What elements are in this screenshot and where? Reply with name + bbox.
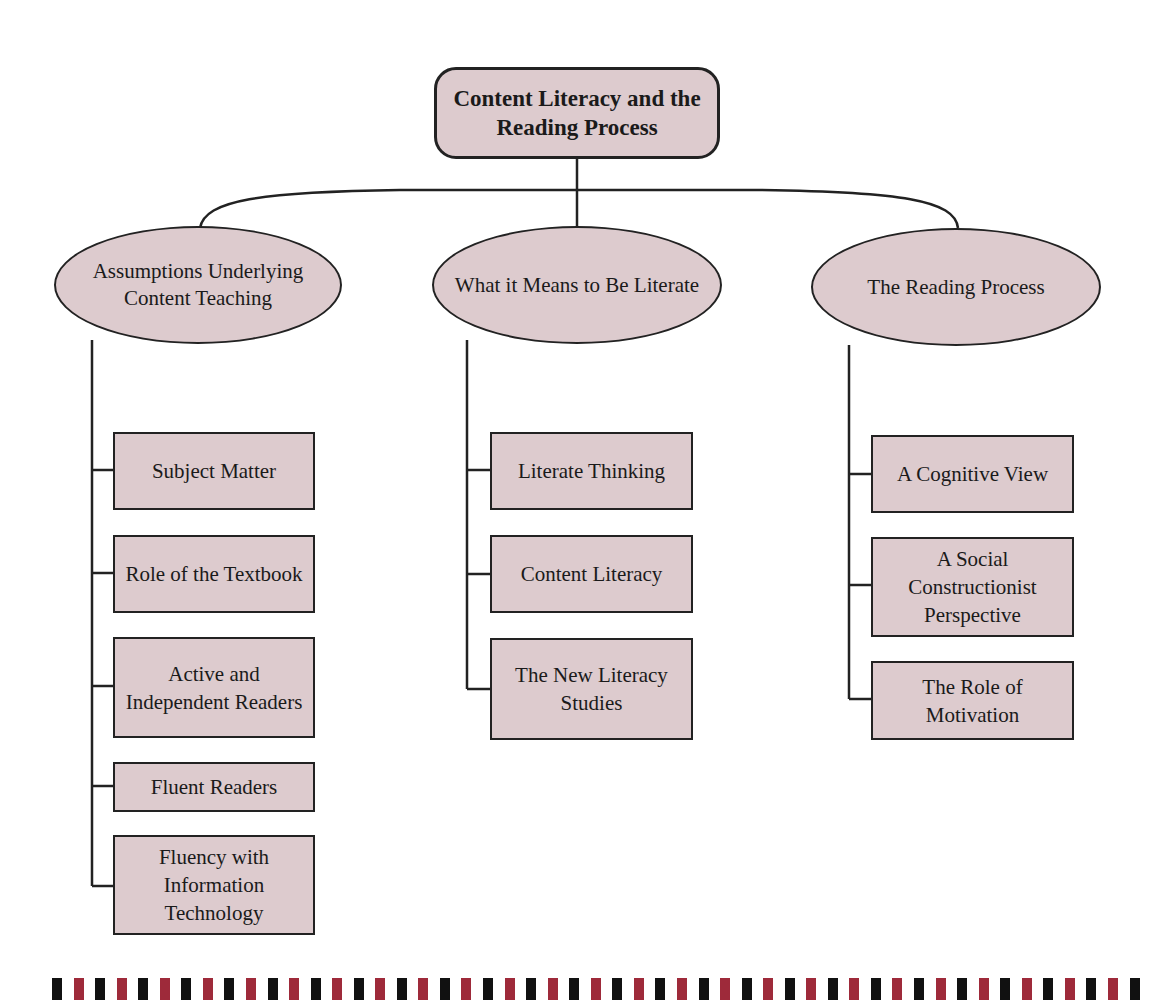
stripe-black <box>311 978 321 1000</box>
stripe-black <box>1086 978 1096 1000</box>
leaf-label: Content Literacy <box>521 560 663 588</box>
leaf-fluent-readers: Fluent Readers <box>113 762 315 812</box>
stripe-red <box>591 978 601 1000</box>
stripe-red <box>246 978 256 1000</box>
root-label: Content Literacy and the Reading Process <box>451 84 703 142</box>
stripe-black <box>828 978 838 1000</box>
stripe-red <box>332 978 342 1000</box>
stripe-black <box>440 978 450 1000</box>
stripe-red <box>892 978 902 1000</box>
stripe-black <box>612 978 622 1000</box>
stripe-black <box>526 978 536 1000</box>
stripe-black <box>95 978 105 1000</box>
leaf-label: Fluency with Information Technology <box>123 843 305 927</box>
stripe-black <box>699 978 709 1000</box>
stripe-black <box>871 978 881 1000</box>
leaf-role-of-textbook: Role of the Textbook <box>113 535 315 613</box>
leaf-cognitive-view: A Cognitive View <box>871 435 1074 513</box>
stripe-black <box>1000 978 1010 1000</box>
stripe-red <box>936 978 946 1000</box>
footer-stripe-bar <box>0 978 1168 1000</box>
leaf-label: Role of the Textbook <box>125 560 302 588</box>
stripe-black <box>397 978 407 1000</box>
stripe-black <box>569 978 579 1000</box>
branch-label: The Reading Process <box>867 274 1044 301</box>
branch-reading-process: The Reading Process <box>811 228 1101 346</box>
stripe-black <box>742 978 752 1000</box>
branch-assumptions: Assumptions Underlying Content Teaching <box>54 226 342 344</box>
leaf-label: A Cognitive View <box>897 460 1048 488</box>
leaf-label: The Role of Motivation <box>881 673 1064 729</box>
stripe-black <box>224 978 234 1000</box>
leaf-label: Subject Matter <box>152 457 276 485</box>
leaf-label: Active and Independent Readers <box>123 660 305 716</box>
stripe-black <box>1130 978 1140 1000</box>
stripe-red <box>677 978 687 1000</box>
branch-label: What it Means to Be Literate <box>455 272 699 299</box>
stripe-black <box>181 978 191 1000</box>
stripe-black <box>957 978 967 1000</box>
stripe-black <box>268 978 278 1000</box>
stripe-red <box>160 978 170 1000</box>
leaf-subject-matter: Subject Matter <box>113 432 315 510</box>
stripe-black <box>655 978 665 1000</box>
leaf-label: Fluent Readers <box>151 773 278 801</box>
stripe-red <box>806 978 816 1000</box>
leaf-literate-thinking: Literate Thinking <box>490 432 693 510</box>
leaf-label: A Social Constructionist Perspective <box>881 545 1064 629</box>
stripe-black <box>1043 978 1053 1000</box>
stripe-red <box>1022 978 1032 1000</box>
stripe-black <box>138 978 148 1000</box>
stripe-red <box>461 978 471 1000</box>
stripe-black <box>483 978 493 1000</box>
stripe-red <box>117 978 127 1000</box>
stripe-red <box>548 978 558 1000</box>
stripe-red <box>505 978 515 1000</box>
leaf-fluency-it: Fluency with Information Technology <box>113 835 315 935</box>
leaf-role-of-motivation: The Role of Motivation <box>871 661 1074 740</box>
leaf-active-independent-readers: Active and Independent Readers <box>113 637 315 738</box>
stripe-red <box>634 978 644 1000</box>
stripe-red <box>203 978 213 1000</box>
stripe-black <box>914 978 924 1000</box>
stripe-red <box>289 978 299 1000</box>
leaf-social-constructionist: A Social Constructionist Perspective <box>871 537 1074 637</box>
leaf-content-literacy: Content Literacy <box>490 535 693 613</box>
stripe-black <box>52 978 62 1000</box>
stripe-red <box>979 978 989 1000</box>
stripe-red <box>418 978 428 1000</box>
stripe-red <box>1108 978 1118 1000</box>
stripe-red <box>74 978 84 1000</box>
leaf-new-literacy-studies: The New Literacy Studies <box>490 638 693 740</box>
stripe-red <box>849 978 859 1000</box>
stripe-black <box>354 978 364 1000</box>
leaf-label: The New Literacy Studies <box>500 661 683 717</box>
stripe-red <box>1065 978 1075 1000</box>
stripe-red <box>720 978 730 1000</box>
stripe-black <box>785 978 795 1000</box>
stripe-red <box>763 978 773 1000</box>
stripe-red <box>375 978 385 1000</box>
root-node: Content Literacy and the Reading Process <box>434 67 720 159</box>
leaf-label: Literate Thinking <box>518 457 665 485</box>
branch-label: Assumptions Underlying Content Teaching <box>74 258 322 312</box>
branch-literate: What it Means to Be Literate <box>432 226 722 344</box>
